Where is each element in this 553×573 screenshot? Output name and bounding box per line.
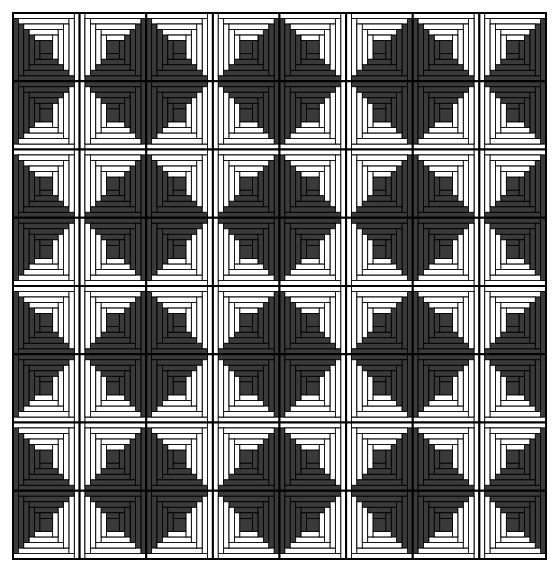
- quilt-block: [413, 286, 480, 354]
- quilt-block: [346, 423, 413, 491]
- quilt-block: [413, 491, 480, 559]
- quilt-block: [346, 218, 413, 286]
- quilt-block: [146, 354, 213, 422]
- quilt-block: [80, 150, 147, 218]
- quilt-block: [213, 81, 280, 149]
- quilt-block: [80, 13, 147, 81]
- quilt-block: [479, 13, 546, 81]
- quilt-block: [146, 286, 213, 354]
- quilt-block: [413, 13, 480, 81]
- quilt-block: [479, 423, 546, 491]
- quilt-block: [213, 354, 280, 422]
- quilt-block: [213, 286, 280, 354]
- quilt-block: [346, 81, 413, 149]
- quilt-block: [80, 286, 147, 354]
- quilt-block: [13, 491, 80, 559]
- quilt-block: [13, 218, 80, 286]
- quilt-block: [213, 423, 280, 491]
- quilt-block: [280, 81, 347, 149]
- quilt-block: [13, 423, 80, 491]
- quilt-block: [13, 13, 80, 81]
- quilt-block: [479, 491, 546, 559]
- quilt-block: [346, 286, 413, 354]
- quilt-block: [80, 354, 147, 422]
- quilt-block: [280, 286, 347, 354]
- quilt-block: [13, 81, 80, 149]
- quilt-block: [146, 13, 213, 81]
- quilt-block: [479, 150, 546, 218]
- quilt-block: [80, 81, 147, 149]
- quilt-block: [13, 286, 80, 354]
- quilt-block: [146, 423, 213, 491]
- quilt-block: [146, 150, 213, 218]
- quilt-block: [13, 150, 80, 218]
- quilt-block: [146, 218, 213, 286]
- quilt-block: [80, 218, 147, 286]
- quilt-block: [213, 218, 280, 286]
- quilt-block: [213, 150, 280, 218]
- quilt-block: [413, 423, 480, 491]
- quilt-block: [80, 423, 147, 491]
- quilt-block: [346, 13, 413, 81]
- quilt-block: [146, 81, 213, 149]
- quilt-block: [479, 354, 546, 422]
- quilt-block: [280, 491, 347, 559]
- quilt-block: [479, 286, 546, 354]
- quilt-block: [80, 491, 147, 559]
- quilt-block: [413, 150, 480, 218]
- quilt-block: [280, 354, 347, 422]
- quilt-block: [413, 218, 480, 286]
- quilt-block: [213, 13, 280, 81]
- quilt-block: [280, 423, 347, 491]
- quilt-block: [346, 150, 413, 218]
- quilt-block: [280, 13, 347, 81]
- quilt-block: [479, 81, 546, 149]
- quilt-block: [213, 491, 280, 559]
- quilt-block: [346, 491, 413, 559]
- quilt-block: [280, 218, 347, 286]
- quilt-block: [346, 354, 413, 422]
- log-cabin-quilt: [0, 0, 553, 573]
- quilt-block: [479, 218, 546, 286]
- quilt-block: [280, 150, 347, 218]
- quilt-block: [146, 491, 213, 559]
- quilt-block: [13, 354, 80, 422]
- quilt-block: [413, 81, 480, 149]
- quilt-block: [413, 354, 480, 422]
